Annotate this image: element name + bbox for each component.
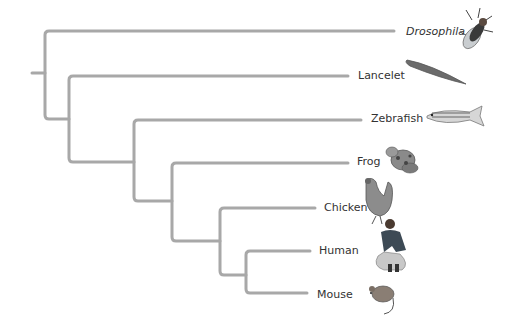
lancelet-icon — [406, 60, 466, 84]
zebrafish-icon — [427, 106, 484, 126]
node-5-branch — [220, 208, 315, 275]
phylogenetic-tree — [0, 0, 523, 328]
node-6-branch — [246, 251, 310, 293]
taxon-label-frog: Frog — [357, 155, 381, 168]
human-icon — [376, 219, 406, 272]
frog-icon — [386, 147, 418, 173]
mouse-icon — [369, 286, 394, 314]
chicken-icon — [365, 178, 393, 224]
taxon-label-chicken: Chicken — [324, 201, 367, 214]
taxon-label-mouse: Mouse — [317, 288, 353, 301]
taxon-label-zebrafish: Zebrafish — [371, 112, 423, 125]
taxon-label-lancelet: Lancelet — [358, 69, 405, 82]
taxon-label-drosophila: Drosophila — [406, 25, 465, 38]
node-4-branch — [172, 163, 348, 241]
taxon-label-human: Human — [319, 244, 359, 257]
node-3-branch — [134, 120, 361, 201]
